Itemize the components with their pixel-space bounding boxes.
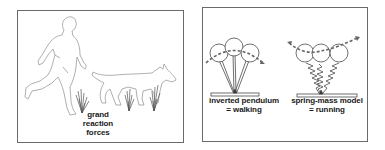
dog-figure <box>92 64 176 105</box>
ground-reaction-force-vectors <box>76 85 160 113</box>
spring-mass-model <box>287 36 360 97</box>
spring <box>306 63 320 93</box>
force-fan-dog-fore <box>150 85 160 111</box>
pendulum-mass <box>225 38 243 56</box>
runner-figure <box>25 17 86 115</box>
panel-ground-reaction-forces: grand reaction forces <box>17 10 184 143</box>
pendulum-mass <box>241 44 259 62</box>
spring <box>317 64 323 93</box>
panel-gait-models: inverted pendulum = walking spring-mass … <box>202 7 368 142</box>
spring <box>323 63 339 93</box>
gait-models-diagram <box>203 8 369 143</box>
spring-mass <box>296 44 314 62</box>
inverted-pendulum-model <box>206 38 265 96</box>
ground-reaction-forces-label: grand reaction forces <box>78 110 118 137</box>
inverted-pendulum-label: inverted pendulum = walking <box>205 96 283 114</box>
spring-mass-label: spring-mass model = running <box>287 96 367 114</box>
force-fan-dog-hind <box>125 89 134 111</box>
